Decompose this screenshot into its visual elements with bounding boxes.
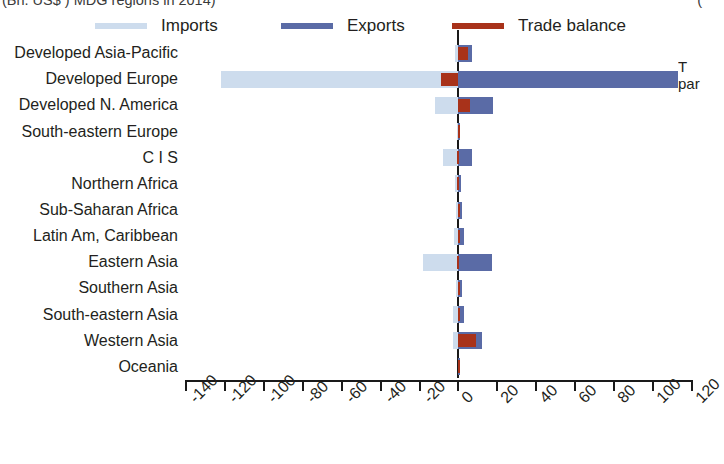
y-axis-label: Oceania xyxy=(0,359,178,375)
bar-trade-balance xyxy=(458,47,468,60)
y-axis-label: Western Asia xyxy=(0,333,178,349)
bar-trade-balance xyxy=(457,256,459,269)
y-axis-label: South-eastern Europe xyxy=(0,124,178,140)
bar-trade-balance xyxy=(458,334,476,347)
bar-exports xyxy=(458,71,678,88)
x-axis-tick xyxy=(691,380,693,391)
legend-swatch-exports-icon xyxy=(281,23,333,29)
x-axis-tick-label: 80 xyxy=(614,394,627,407)
x-axis-tick-label: -80 xyxy=(303,394,316,407)
x-axis-tick xyxy=(535,380,537,391)
y-axis-label: C I S xyxy=(0,150,178,166)
bar-exports xyxy=(458,254,491,271)
legend-label-exports: Exports xyxy=(347,16,405,36)
x-axis-tick-label: 100 xyxy=(653,394,666,407)
bar-trade-balance xyxy=(458,204,460,217)
bar-trade-balance xyxy=(457,151,459,164)
bar-exports xyxy=(458,149,472,166)
x-axis-tick xyxy=(652,380,654,391)
page-title-right-fragment: ( xyxy=(697,0,702,8)
x-axis-tick-label: -140 xyxy=(186,394,199,407)
y-axis-label: Northern Africa xyxy=(0,176,178,192)
legend-label-imports: Imports xyxy=(161,16,218,36)
x-axis-tick-label: 120 xyxy=(692,394,705,407)
legend-item-trade-balance[interactable]: Trade balance xyxy=(452,14,626,38)
bar-trade-balance xyxy=(458,282,460,295)
x-axis-tick-label: -60 xyxy=(342,394,355,407)
x-axis-tick-label: 20 xyxy=(497,394,510,407)
x-axis-tick-label: 0 xyxy=(458,394,471,407)
x-axis-tick xyxy=(185,380,187,391)
x-axis-tick-label: 40 xyxy=(536,394,549,407)
x-axis-tick xyxy=(613,380,615,391)
bar-imports xyxy=(435,97,458,114)
x-axis-tick-label: -20 xyxy=(420,394,433,407)
x-axis-tick-label: -120 xyxy=(225,394,238,407)
bar-trade-balance xyxy=(458,360,460,373)
side-annotation-line1: T xyxy=(678,58,706,75)
x-axis-tick xyxy=(574,380,576,391)
legend-item-imports[interactable]: Imports xyxy=(95,14,218,38)
chart-bars-area xyxy=(186,40,692,380)
x-axis-tick xyxy=(419,380,421,391)
x-axis-tick xyxy=(263,380,265,391)
x-axis-tick xyxy=(302,380,304,391)
x-axis-tick xyxy=(224,380,226,391)
legend-swatch-trade-balance-icon xyxy=(452,23,504,29)
side-annotation-line2: par xyxy=(678,75,706,92)
bar-trade-balance xyxy=(457,177,459,190)
chart-title-row: (Bn. US$ ) MDG regions in 2014) ( xyxy=(0,0,706,10)
chart-plot-area: Developed Asia-PacificDeveloped EuropeDe… xyxy=(0,40,706,392)
y-axis-label: South-eastern Asia xyxy=(0,307,178,323)
y-axis-label: Eastern Asia xyxy=(0,254,178,270)
x-axis-tick-label: -100 xyxy=(264,394,277,407)
legend-label-trade-balance: Trade balance xyxy=(518,16,626,36)
legend-swatch-imports-icon xyxy=(95,23,147,29)
bar-trade-balance xyxy=(458,125,460,138)
x-axis-tick xyxy=(380,380,382,391)
y-axis-label: Sub-Saharan Africa xyxy=(0,202,178,218)
legend-item-exports[interactable]: Exports xyxy=(281,14,405,38)
y-axis-category-labels: Developed Asia-PacificDeveloped EuropeDe… xyxy=(0,40,182,380)
y-axis-label: Developed Europe xyxy=(0,71,178,87)
bar-trade-balance xyxy=(441,73,459,86)
chart-legend: Imports Exports Trade balance xyxy=(0,14,706,38)
bar-trade-balance xyxy=(458,230,460,243)
bar-imports xyxy=(221,71,458,88)
side-annotation: T par xyxy=(678,58,706,93)
x-axis-tick-label: -40 xyxy=(381,394,394,407)
bar-trade-balance xyxy=(458,99,470,112)
y-axis-label: Developed N. America xyxy=(0,97,178,113)
x-axis-tick xyxy=(457,380,459,391)
x-axis: -140-120-100-80-60-40-20020406080100120 xyxy=(186,380,692,382)
page-title: (Bn. US$ ) MDG regions in 2014) xyxy=(2,0,216,8)
bar-imports xyxy=(423,254,458,271)
x-axis-tick xyxy=(341,380,343,391)
y-axis-label: Developed Asia-Pacific xyxy=(0,45,178,61)
y-axis-label: Latin Am, Caribbean xyxy=(0,228,178,244)
y-axis-label: Southern Asia xyxy=(0,280,178,296)
x-axis-tick-label: 60 xyxy=(575,394,588,407)
bar-trade-balance xyxy=(458,308,460,321)
x-axis-tick xyxy=(496,380,498,391)
